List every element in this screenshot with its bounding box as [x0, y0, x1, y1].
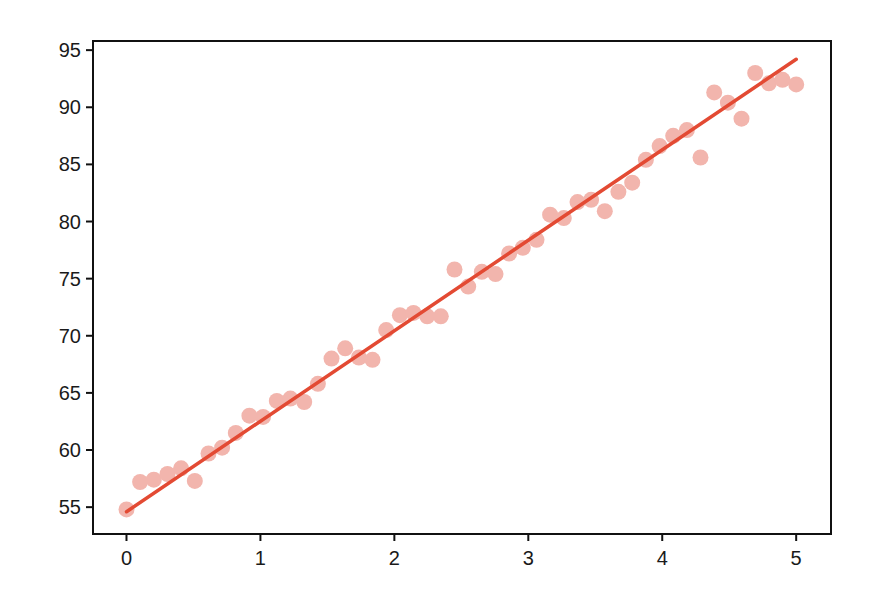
y-tick-label: 65: [59, 382, 81, 404]
y-axis-ticks: 556065707580859095: [59, 39, 93, 518]
data-point: [392, 307, 408, 323]
data-point: [788, 76, 804, 92]
data-point: [747, 65, 763, 81]
data-point: [433, 308, 449, 324]
data-point: [365, 352, 381, 368]
regression-line: [127, 59, 797, 511]
x-tick-label: 2: [389, 547, 400, 569]
data-point: [610, 184, 626, 200]
data-point: [693, 150, 709, 166]
y-tick-label: 95: [59, 39, 81, 61]
data-point: [187, 473, 203, 489]
data-point: [132, 474, 148, 490]
x-axis-ticks: 012345: [121, 534, 802, 569]
y-tick-label: 80: [59, 211, 81, 233]
y-tick-label: 75: [59, 268, 81, 290]
y-tick-label: 60: [59, 439, 81, 461]
data-point: [146, 472, 162, 488]
y-tick-label: 55: [59, 496, 81, 518]
data-point: [597, 203, 613, 219]
data-point: [706, 84, 722, 100]
x-tick-label: 0: [121, 547, 132, 569]
fit-line: [127, 59, 797, 511]
scatter-plot-with-fit-line: 012345 556065707580859095: [0, 0, 880, 616]
data-point: [624, 175, 640, 191]
chart-canvas: 012345 556065707580859095: [0, 0, 880, 616]
data-point: [447, 262, 463, 278]
x-tick-label: 1: [255, 547, 266, 569]
x-tick-label: 3: [523, 547, 534, 569]
x-tick-label: 5: [791, 547, 802, 569]
y-tick-label: 90: [59, 96, 81, 118]
data-point: [488, 266, 504, 282]
data-point: [734, 111, 750, 127]
data-point: [337, 340, 353, 356]
data-point: [324, 351, 340, 367]
data-point: [241, 408, 257, 424]
y-tick-label: 70: [59, 325, 81, 347]
x-tick-label: 4: [657, 547, 668, 569]
y-tick-label: 85: [59, 153, 81, 175]
